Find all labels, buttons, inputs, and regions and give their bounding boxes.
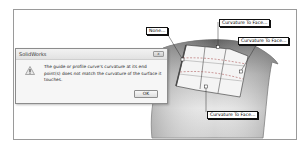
ok-button[interactable]: OK <box>134 90 158 98</box>
warning-dialog: SolidWorks x The guide or profile curve'… <box>15 48 168 104</box>
dialog-title: SolidWorks <box>19 51 46 57</box>
warning-icon <box>25 66 35 75</box>
callout-curvature-right[interactable]: Curvature To Face... <box>238 37 289 45</box>
dialog-message: The guide or profile curve's curvature a… <box>44 64 164 84</box>
dialog-close-button[interactable]: x <box>153 51 164 57</box>
callout-curvature-bottom[interactable]: Curvature To Face... <box>207 111 258 119</box>
callout-curvature-top[interactable]: Curvature To Face... <box>219 19 270 27</box>
callout-none[interactable]: None... <box>146 27 168 35</box>
dialog-title-bar[interactable]: SolidWorks x <box>16 49 167 60</box>
